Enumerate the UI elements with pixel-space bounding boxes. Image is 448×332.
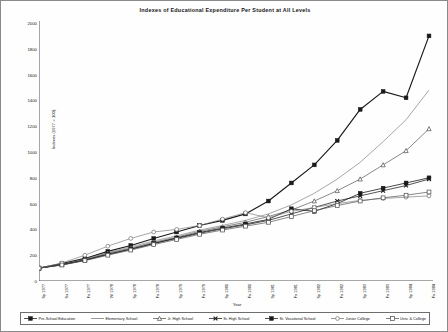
- legend-marker-icon: [331, 315, 344, 322]
- y-tick-label: 0: [35, 279, 37, 284]
- y-tick-label: 200: [30, 253, 37, 258]
- x-tick-label: Fa 1979: [201, 284, 206, 298]
- plot-area: Indexes (1977 = 100) 0200400600800100012…: [39, 19, 435, 281]
- x-tick-label: Fa 1978: [155, 284, 160, 298]
- y-tick-label: 1800: [27, 46, 37, 51]
- legend-item[interactable]: Elementary School: [91, 315, 137, 322]
- x-tick-label: Sp 1978: [132, 284, 137, 299]
- y-axis-label: Indexes (1977 = 100): [51, 70, 56, 190]
- x-tick-label: Fa 1982: [339, 284, 344, 298]
- legend-label: Univ. & College: [400, 317, 426, 321]
- y-tick-label: 800: [30, 175, 37, 180]
- legend-item[interactable]: Sr. Vocational School: [265, 315, 315, 322]
- legend-marker-icon: [209, 315, 222, 322]
- legend-item[interactable]: Univ. & College: [386, 315, 426, 322]
- x-tick-label: Fa 1981: [293, 284, 298, 298]
- x-tick-label: Sp 1984: [408, 284, 413, 299]
- y-tick-label: 400: [30, 227, 37, 232]
- x-tick-label: Su 1977: [64, 284, 69, 299]
- y-tick-label: 1000: [27, 150, 37, 155]
- x-tick-label: Sp 1983: [362, 284, 367, 299]
- legend-marker-icon: [153, 315, 166, 322]
- legend-label: Jr. High School: [167, 317, 193, 321]
- chart-figure: Indexes of Educational Expenditure Per S…: [0, 0, 448, 332]
- y-tick-label: 1400: [27, 98, 37, 103]
- x-tick-label: Sp 1977: [41, 284, 46, 299]
- legend-item[interactable]: Junior College: [331, 315, 370, 322]
- chart-legend: Pre-School EducationElementary SchoolJr.…: [20, 312, 430, 325]
- x-tick-label: Sp 1980: [224, 284, 229, 299]
- legend-label: Sr. High School: [223, 317, 249, 321]
- chart-title: Indexes of Educational Expenditure Per S…: [1, 7, 448, 13]
- x-tick-label: Wi 1978: [109, 284, 114, 298]
- y-tick-label: 600: [30, 201, 37, 206]
- legend-label: Junior College: [346, 317, 370, 321]
- x-tick-label: Fa 1977: [86, 284, 91, 298]
- legend-item[interactable]: Sr. High School: [209, 315, 250, 322]
- x-tick-label: Sp 1979: [178, 284, 183, 299]
- x-tick-label: Fa 1984: [431, 284, 436, 298]
- x-axis-label: Year: [39, 302, 435, 307]
- chart-canvas: [39, 19, 435, 281]
- x-tick-label: Fa 1980: [247, 284, 252, 298]
- legend-item[interactable]: Jr. High School: [153, 315, 193, 322]
- legend-marker-icon: [265, 315, 278, 322]
- legend-marker-icon: [91, 315, 104, 322]
- legend-label: Pre-School Education: [39, 317, 76, 321]
- legend-marker-icon: [24, 315, 37, 322]
- y-tick-label: 2000: [27, 21, 37, 26]
- y-tick-label: 1200: [27, 124, 37, 129]
- legend-item[interactable]: Pre-School Education: [24, 315, 75, 322]
- legend-label: Sr. Vocational School: [280, 317, 316, 321]
- x-tick-label: Sp 1982: [316, 284, 321, 299]
- y-tick-label: 1600: [27, 72, 37, 77]
- x-tick-label: Fa 1983: [385, 284, 390, 298]
- legend-label: Elementary School: [105, 317, 137, 321]
- legend-marker-icon: [386, 315, 399, 322]
- x-tick-label: Sp 1981: [270, 284, 275, 299]
